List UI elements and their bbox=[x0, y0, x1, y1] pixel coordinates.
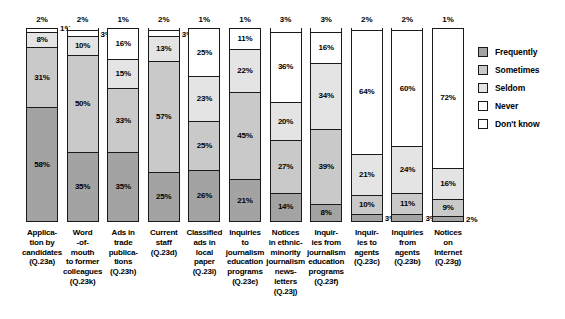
bar-segment-seldom[interactable]: 20% bbox=[271, 103, 301, 142]
segment-value-label: 64% bbox=[359, 88, 374, 96]
bar-segment-seldom[interactable]: 21% bbox=[352, 155, 382, 196]
bar-segment-never[interactable]: 11% bbox=[230, 29, 260, 50]
category-label: Inquir-ies fromjournalismeducationprogra… bbox=[303, 228, 349, 287]
bar-stack[interactable]: 58%31%8% bbox=[26, 28, 58, 222]
bar-segment-don-t-know[interactable] bbox=[27, 27, 57, 29]
bar-segment-frequently[interactable]: 35% bbox=[108, 153, 138, 221]
bar-segment-seldom[interactable]: 22% bbox=[230, 50, 260, 93]
bar-segment-frequently[interactable] bbox=[352, 215, 382, 221]
category-label-line: ies to bbox=[344, 238, 390, 248]
bar-segment-sometimes[interactable]: 27% bbox=[271, 141, 301, 193]
legend-item-don-t-know[interactable]: Don't know bbox=[478, 116, 564, 132]
bar-stack[interactable]: 14%27%20%36% bbox=[270, 28, 302, 222]
segment-value-label: 15% bbox=[115, 70, 130, 78]
bar-segment-sometimes[interactable]: 9% bbox=[433, 200, 463, 217]
bar-segment-never[interactable] bbox=[27, 29, 57, 33]
bar-segment-never[interactable]: 64% bbox=[352, 31, 382, 155]
bar-column: 14%27%20%36% bbox=[270, 28, 302, 222]
bar-segment-seldom[interactable]: 24% bbox=[392, 147, 422, 194]
bar-segment-don-t-know[interactable] bbox=[149, 27, 179, 31]
bar-stack[interactable]: 35%33%15%16% bbox=[107, 28, 139, 222]
segment-value-label: 27% bbox=[278, 163, 293, 171]
bar-stack[interactable]: 26%25%23%25% bbox=[188, 28, 220, 222]
bar-segment-never[interactable]: 36% bbox=[271, 33, 301, 103]
category-label: Noticesin ethnic-minorityjournalismnews-… bbox=[263, 228, 309, 296]
bar-segment-seldom[interactable]: 23% bbox=[189, 77, 219, 122]
bar-segment-don-t-know[interactable] bbox=[68, 27, 98, 31]
bar-segment-don-t-know[interactable] bbox=[230, 27, 260, 29]
category-label-line: agents bbox=[384, 248, 430, 258]
bar-column: 58%31%8% bbox=[26, 28, 58, 222]
bar-segment-sometimes[interactable]: 45% bbox=[230, 93, 260, 180]
bar-segment-sometimes[interactable]: 25% bbox=[189, 122, 219, 171]
legend-item-seldom[interactable]: Seldom bbox=[478, 80, 564, 96]
bar-stack[interactable]: 11%24%60% bbox=[391, 28, 423, 222]
bar-segment-don-t-know[interactable] bbox=[108, 27, 138, 29]
segment-value-label-above: 2% bbox=[148, 16, 180, 24]
bar-segment-frequently[interactable]: 35% bbox=[68, 153, 98, 221]
bar-segment-don-t-know[interactable] bbox=[433, 27, 463, 29]
bar-segment-sometimes[interactable]: 11% bbox=[392, 194, 422, 215]
bar-segment-sometimes[interactable]: 33% bbox=[108, 89, 138, 153]
legend-item-never[interactable]: Never bbox=[478, 98, 564, 114]
bar-stack[interactable]: 35%50%10% bbox=[67, 28, 99, 222]
bar-segment-seldom[interactable]: 10% bbox=[68, 37, 98, 56]
bar-segment-frequently[interactable]: 26% bbox=[189, 171, 219, 221]
bar-segment-never[interactable]: 72% bbox=[433, 29, 463, 169]
bar-column: 25%57%13% bbox=[148, 28, 180, 222]
bar-stack[interactable]: 25%57%13% bbox=[148, 28, 180, 222]
bar-segment-never[interactable]: 16% bbox=[311, 33, 341, 64]
segment-value-label: 45% bbox=[237, 132, 252, 140]
bar-segment-never[interactable]: 25% bbox=[189, 29, 219, 78]
legend-item-frequently[interactable]: Frequently bbox=[478, 44, 564, 60]
segment-value-label: 25% bbox=[156, 193, 171, 201]
bar-segment-seldom[interactable]: 13% bbox=[149, 37, 179, 62]
bar-segment-frequently[interactable]: 14% bbox=[271, 194, 301, 221]
category-label-line: Inquir- bbox=[303, 228, 349, 238]
bar-segment-frequently[interactable]: 21% bbox=[230, 180, 260, 221]
bar-column: 21%45%22%11% bbox=[229, 28, 261, 222]
legend-item-sometimes[interactable]: Sometimes bbox=[478, 62, 564, 78]
bar-stack[interactable]: 9%16%72% bbox=[432, 28, 464, 222]
category-label-line: education bbox=[303, 257, 349, 267]
bar-segment-seldom[interactable]: 34% bbox=[311, 64, 341, 130]
bar-segment-frequently[interactable]: 25% bbox=[149, 173, 179, 222]
bar-segment-seldom[interactable]: 8% bbox=[27, 33, 57, 49]
bar-segment-sometimes[interactable]: 10% bbox=[352, 196, 382, 215]
segment-value-label: 60% bbox=[400, 85, 415, 93]
bar-segment-sometimes[interactable]: 31% bbox=[27, 48, 57, 108]
bar-segment-sometimes[interactable]: 39% bbox=[311, 130, 341, 206]
legend-label: Don't know bbox=[495, 119, 539, 129]
bar-segment-don-t-know[interactable] bbox=[189, 27, 219, 29]
bar-segment-never[interactable] bbox=[149, 31, 179, 37]
bar-segment-frequently[interactable] bbox=[392, 215, 422, 221]
bar-segment-frequently[interactable] bbox=[433, 217, 463, 221]
category-label-line: journalism bbox=[263, 257, 309, 267]
segment-value-label-callout: 2% bbox=[466, 216, 478, 224]
bar-segment-never[interactable] bbox=[68, 31, 98, 37]
segment-value-label: 22% bbox=[237, 67, 252, 75]
bar-segment-don-t-know[interactable] bbox=[352, 27, 382, 31]
bar-segment-frequently[interactable]: 58% bbox=[27, 108, 57, 221]
bar-segment-never[interactable]: 60% bbox=[392, 31, 422, 147]
bar-column: 11%24%60% bbox=[391, 28, 423, 222]
bar-stack[interactable]: 10%21%64% bbox=[351, 28, 383, 222]
bar-segment-sometimes[interactable]: 50% bbox=[68, 56, 98, 153]
segment-value-label: 16% bbox=[115, 40, 130, 48]
bar-segment-don-t-know[interactable] bbox=[392, 27, 422, 31]
bar-segment-frequently[interactable]: 8% bbox=[311, 205, 341, 221]
segment-value-label-above: 1% bbox=[107, 16, 139, 24]
segment-value-label: 58% bbox=[34, 161, 49, 169]
category-label-line: Internet bbox=[425, 248, 471, 258]
category-label-line: Ads in bbox=[100, 228, 146, 238]
category-label-line: (Q.23j) bbox=[263, 287, 309, 297]
bar-stack[interactable]: 21%45%22%11% bbox=[229, 28, 261, 222]
bar-segment-don-t-know[interactable] bbox=[311, 27, 341, 33]
bar-stack[interactable]: 8%39%34%16% bbox=[310, 28, 342, 222]
bar-segment-seldom[interactable]: 15% bbox=[108, 60, 138, 89]
bar-segment-never[interactable]: 16% bbox=[108, 29, 138, 60]
bar-segment-don-t-know[interactable] bbox=[271, 27, 301, 33]
bar-segment-seldom[interactable]: 16% bbox=[433, 169, 463, 200]
bar-segment-sometimes[interactable]: 57% bbox=[149, 62, 179, 173]
category-label-line: mouth bbox=[60, 248, 106, 258]
